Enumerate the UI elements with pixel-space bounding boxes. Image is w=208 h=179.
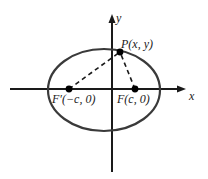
x-axis-arrowhead bbox=[177, 86, 186, 93]
ellipse-figure: P(x, y) F′(−c, 0) F(c, 0) y x bbox=[0, 0, 208, 179]
y-axis-arrowhead bbox=[109, 14, 116, 23]
focus-right-label: F(c, 0) bbox=[117, 93, 150, 105]
ellipse-diagram-canvas bbox=[0, 0, 208, 179]
x-axis-label: x bbox=[189, 90, 194, 102]
point-p-label: P(x, y) bbox=[121, 38, 153, 50]
segment-focus-right-to-p bbox=[120, 52, 135, 89]
focus-left-label: F′(−c, 0) bbox=[52, 93, 95, 105]
focal-radii-group bbox=[69, 52, 135, 89]
y-axis-label: y bbox=[116, 12, 121, 24]
